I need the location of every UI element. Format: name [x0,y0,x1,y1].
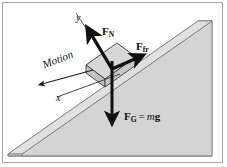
gravity-equals-sign: = [139,110,145,122]
mass-symbol: m [147,110,155,122]
friction-force-subscript: fr [143,45,149,54]
physics-diagram-inclined-plane: y x Motion FN Ffr FG=mg [0,0,227,167]
gravity-force-symbol: F [124,110,131,122]
gravity-force-label: FG=mg [124,111,160,123]
gravity-constant-symbol: g [155,110,161,122]
y-axis-label: y [76,13,80,23]
friction-force-symbol: F [136,40,143,52]
friction-force-label: Ffr [136,41,149,53]
normal-force-subscript: N [109,30,114,39]
normal-force-symbol: F [102,25,109,37]
gravity-force-subscript: G [131,115,137,124]
normal-force-label: FN [102,26,114,38]
x-axis-label: x [56,93,60,103]
